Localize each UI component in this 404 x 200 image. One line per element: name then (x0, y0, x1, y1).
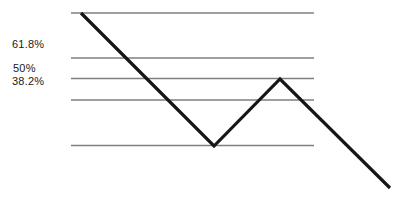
level-label-38.2: 38.2% (12, 75, 44, 87)
level-label-61.8: 61.8% (12, 38, 44, 50)
fibonacci-retracement-diagram: 61.8% 50% 38.2% (0, 0, 404, 200)
chart-canvas (0, 0, 404, 200)
level-label-50: 50% (13, 62, 36, 74)
